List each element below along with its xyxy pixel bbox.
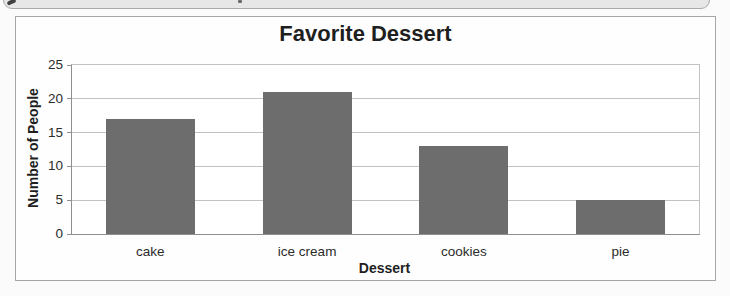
x-axis-title: Dessert — [71, 260, 698, 276]
x-tick-label: cookies — [386, 244, 543, 260]
x-tick-label: ice cream — [229, 244, 386, 260]
chart-title: Favorite Dessert — [16, 22, 715, 46]
bar-cake — [106, 119, 195, 234]
bar-cookies — [419, 146, 508, 234]
x-tick-label: pie — [542, 244, 699, 260]
bar-pie — [576, 200, 665, 234]
y-tick-label: 20 — [21, 90, 63, 108]
y-tick-mark — [67, 132, 72, 133]
plot-area: 0510152025cakeice creamcookiespie — [71, 64, 700, 235]
y-tick-label: 5 — [21, 191, 63, 209]
y-tick-label: 10 — [21, 157, 63, 175]
y-tick-label: 25 — [21, 56, 63, 74]
y-tick-label: 0 — [21, 225, 63, 243]
stray-mark — [238, 0, 242, 3]
y-tick-mark — [67, 98, 72, 99]
y-tick-mark — [67, 65, 72, 66]
y-tick-mark — [67, 234, 72, 235]
y-tick-mark — [67, 200, 72, 201]
y-tick-mark — [67, 166, 72, 167]
bar-ice-cream — [263, 92, 352, 234]
page: Favorite Dessert Number of People 051015… — [0, 0, 730, 296]
y-tick-label: 15 — [21, 124, 63, 142]
x-tick-label: cake — [72, 244, 229, 260]
chart-container: Favorite Dessert Number of People 051015… — [15, 16, 716, 281]
gridline — [72, 98, 699, 99]
top-panel-bottom-edge — [3, 0, 710, 9]
